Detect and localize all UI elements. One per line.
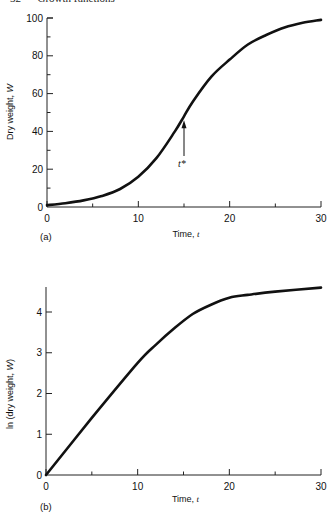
- y-tick-label: 100: [26, 13, 43, 24]
- y-axis-title: ln (dry weight, W): [5, 359, 15, 429]
- figure: 0102030020406080100Time, tDry weight, W(…: [0, 0, 335, 513]
- y-tick-label: 3: [36, 347, 42, 358]
- x-tick-label: 10: [132, 481, 144, 492]
- y-tick-label: 40: [32, 126, 44, 137]
- data-curve: [47, 20, 321, 205]
- x-tick-label: 30: [315, 213, 327, 224]
- y-tick-label: 0: [37, 202, 43, 213]
- x-tick-label: 10: [133, 213, 145, 224]
- y-tick-label: 60: [32, 88, 44, 99]
- chart-panel-a: 0102030020406080100Time, tDry weight, W(…: [5, 13, 327, 243]
- annotation-label: t*: [178, 158, 186, 169]
- x-tick-label: 20: [224, 213, 236, 224]
- chart-panel-b: 010203001234Time, tln (dry weight, W)(b): [5, 287, 327, 512]
- y-tick-label: 0: [36, 470, 42, 481]
- y-axis-title: Dry weight, W: [5, 82, 15, 140]
- x-tick-label: 0: [43, 481, 49, 492]
- y-tick-label: 80: [32, 50, 44, 61]
- panel-label: (b): [40, 501, 52, 512]
- y-tick-label: 4: [36, 307, 42, 318]
- x-tick-label: 0: [44, 213, 50, 224]
- panel-label: (a): [40, 231, 52, 242]
- y-tick-label: 2: [36, 388, 42, 399]
- x-tick-label: 20: [224, 481, 236, 492]
- x-axis-title: Time, t: [172, 494, 200, 504]
- x-tick-label: 30: [315, 481, 327, 492]
- data-curve: [46, 288, 321, 475]
- y-tick-label: 1: [36, 429, 42, 440]
- y-tick-label: 20: [32, 164, 44, 175]
- x-axis-title: Time, t: [172, 229, 200, 239]
